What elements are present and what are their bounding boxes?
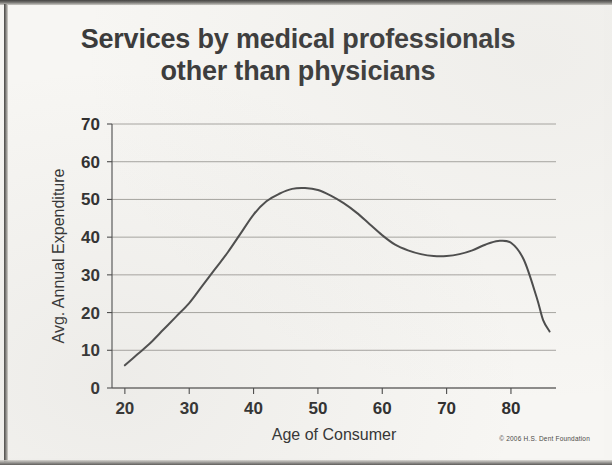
y-tick-label-10: 10 [81,341,100,360]
x-tick-label-50: 50 [308,399,327,418]
scan-edge-bottom [0,460,612,465]
scanned-slide-page: Services by medical professionals other … [0,0,612,465]
y-tick-label-60: 60 [81,153,100,172]
y-axis-tick-labels: 010203040506070 [81,115,100,398]
x-tick-label-30: 30 [180,399,199,418]
slide-body: Services by medical professionals other … [8,6,604,458]
x-tick-label-80: 80 [501,399,520,418]
y-tick-label-70: 70 [81,115,100,134]
copyright-notice: © 2006 H.S. Dent Foundation [499,435,590,442]
gridlines-group [112,124,556,388]
x-tick-label-20: 20 [115,399,134,418]
chart-plot-area: 010203040506070 20304050607080 Avg. Annu… [8,104,604,454]
y-axis-title: Avg. Annual Expenditure [50,168,67,343]
axes-group [112,124,556,388]
y-tick-label-50: 50 [81,190,100,209]
x-tick-label-60: 60 [373,399,392,418]
x-axis-tick-labels: 20304050607080 [115,399,520,418]
x-tick-label-40: 40 [244,399,263,418]
scan-edge-top [0,0,612,5]
x-axis-title: Age of Consumer [272,426,397,443]
y-tick-label-30: 30 [81,266,100,285]
y-tick-label-20: 20 [81,304,100,323]
line-chart: 010203040506070 20304050607080 Avg. Annu… [8,104,604,454]
x-tick-label-70: 70 [437,399,456,418]
axis-ticks-group [107,124,511,394]
y-tick-label-40: 40 [81,228,100,247]
chart-title: Services by medical professionals other … [28,24,568,88]
chart-title-line-1: Services by medical professionals [81,24,516,54]
y-tick-label-0: 0 [91,379,100,398]
chart-title-line-2: other than physicians [28,56,568,88]
expenditure-curve [125,188,550,365]
